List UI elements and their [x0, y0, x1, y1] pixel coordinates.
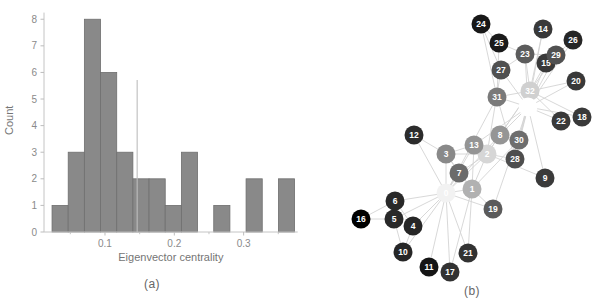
graph-node-13: 13 — [465, 136, 484, 155]
x-axis-label: Eigenvector centrality — [118, 251, 224, 263]
graph-node-20: 20 — [567, 72, 586, 91]
node-label: 9 — [543, 173, 548, 183]
histogram-bar — [165, 205, 181, 232]
graph-node-23: 23 — [516, 45, 535, 64]
histogram-bar — [68, 152, 84, 232]
node-label: 31 — [492, 92, 502, 102]
histogram-bar — [52, 205, 68, 232]
node-label: 26 — [568, 35, 578, 45]
node-label: 14 — [538, 24, 548, 34]
node-label: 24 — [476, 19, 486, 29]
node-label: 0 — [444, 188, 449, 198]
eigenvector-centrality-histogram: 0123456780.10.20.3Eigenvector centrality… — [0, 0, 320, 305]
node-label: 28 — [510, 154, 520, 164]
graph-node-6: 6 — [386, 192, 405, 211]
y-tick-label: 3 — [31, 147, 37, 158]
node-label: 17 — [445, 267, 455, 277]
graph-node-3: 3 — [437, 145, 456, 164]
graph-node-24: 24 — [472, 15, 491, 34]
graph-node-31: 31 — [488, 88, 507, 107]
graph-node-21: 21 — [459, 244, 478, 263]
histogram-bar — [149, 179, 165, 232]
graph-edge — [414, 135, 446, 193]
y-tick-label: 8 — [31, 14, 37, 25]
x-tick-label: 0.2 — [167, 238, 181, 249]
graph-node-9: 9 — [536, 169, 555, 188]
histogram-bar — [117, 152, 133, 232]
graph-node-14: 14 — [534, 20, 553, 39]
graph-edge — [528, 107, 545, 178]
karate-club-network-graph: 0123456789101112131415161718192021222324… — [310, 0, 598, 305]
x-tick-label: 0.3 — [237, 238, 251, 249]
graph-node-29: 29 — [547, 46, 566, 65]
node-label: 5 — [392, 214, 397, 224]
histogram-bar — [181, 152, 197, 232]
graph-node-8: 8 — [491, 126, 510, 145]
node-label: 8 — [498, 130, 503, 140]
graph-node-32: 32 — [521, 82, 540, 101]
graph-node-28: 28 — [506, 150, 525, 169]
node-label: 25 — [494, 38, 504, 48]
graph-node-1: 1 — [463, 180, 482, 199]
node-label: 11 — [425, 262, 434, 272]
y-tick-label: 0 — [31, 227, 37, 238]
graph-node-4: 4 — [404, 217, 423, 236]
node-label: 1 — [470, 184, 475, 194]
node-label: 7 — [457, 168, 462, 178]
node-label: 32 — [525, 86, 535, 96]
graph-node-19: 19 — [484, 200, 503, 219]
two-panel-figure: 0123456780.10.20.3Eigenvector centrality… — [0, 0, 598, 305]
graph-node-27: 27 — [492, 61, 511, 80]
y-tick-label: 7 — [31, 40, 37, 51]
y-tick-label: 5 — [31, 94, 37, 105]
y-tick-label: 4 — [31, 120, 37, 131]
graph-node-17: 17 — [441, 263, 460, 282]
histogram-bar — [84, 19, 100, 232]
histogram-bar — [101, 72, 117, 232]
node-label: 6 — [393, 196, 398, 206]
graph-node-16: 16 — [352, 210, 371, 229]
histogram-bar — [133, 179, 149, 232]
histogram-bar — [214, 205, 230, 232]
node-label: 2 — [485, 149, 490, 159]
node-label: 22 — [556, 116, 566, 126]
histogram-bar — [278, 179, 294, 232]
graph-node-22: 22 — [552, 112, 571, 131]
graph-node-10: 10 — [394, 243, 413, 262]
graph-edge — [468, 189, 472, 253]
graph-node-18: 18 — [573, 108, 592, 127]
graph-node-25: 25 — [490, 34, 509, 53]
node-label: 16 — [356, 214, 366, 224]
graph-edge — [446, 193, 450, 272]
histogram-bar — [246, 179, 262, 232]
graph-node-7: 7 — [450, 164, 469, 183]
panel-b-caption: (b) — [450, 284, 494, 298]
node-label: 13 — [469, 140, 479, 150]
node-label: 30 — [514, 135, 524, 145]
y-axis-label: Count — [3, 106, 15, 135]
node-label: 29 — [551, 50, 561, 60]
node-label: 12 — [409, 130, 419, 140]
node-label: 3 — [444, 149, 449, 159]
node-label: 27 — [496, 65, 506, 75]
node-label: 10 — [398, 247, 408, 257]
y-tick-label: 6 — [31, 67, 37, 78]
node-label: 20 — [571, 76, 581, 86]
y-tick-label: 2 — [31, 173, 37, 184]
node-label: 33 — [523, 102, 533, 112]
node-label: 19 — [488, 204, 498, 214]
graph-node-12: 12 — [405, 126, 424, 145]
graph-node-11: 11 — [420, 258, 439, 277]
graph-node-30: 30 — [510, 131, 529, 150]
node-label: 23 — [520, 49, 530, 59]
node-label: 21 — [463, 248, 473, 258]
panel-a-caption: (a) — [130, 277, 174, 291]
graph-node-26: 26 — [564, 31, 583, 50]
y-tick-label: 1 — [31, 200, 37, 211]
node-label: 18 — [577, 112, 587, 122]
graph-node-0: 0 — [437, 184, 456, 203]
x-tick-label: 0.1 — [98, 238, 112, 249]
graph-node-5: 5 — [385, 210, 404, 229]
node-label: 4 — [411, 221, 416, 231]
graph-node-33: 33 — [519, 98, 538, 117]
